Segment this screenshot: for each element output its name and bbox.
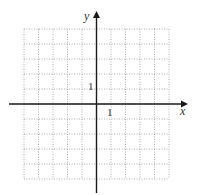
x-unit-label: 1 [107, 106, 113, 118]
axes [9, 11, 188, 193]
x-axis-label: x [179, 104, 186, 118]
y-axis-label: y [83, 9, 90, 23]
y-unit-label: 1 [88, 80, 94, 92]
coordinate-plane: y x 1 1 [0, 0, 197, 195]
y-axis-arrow-icon [93, 11, 100, 18]
